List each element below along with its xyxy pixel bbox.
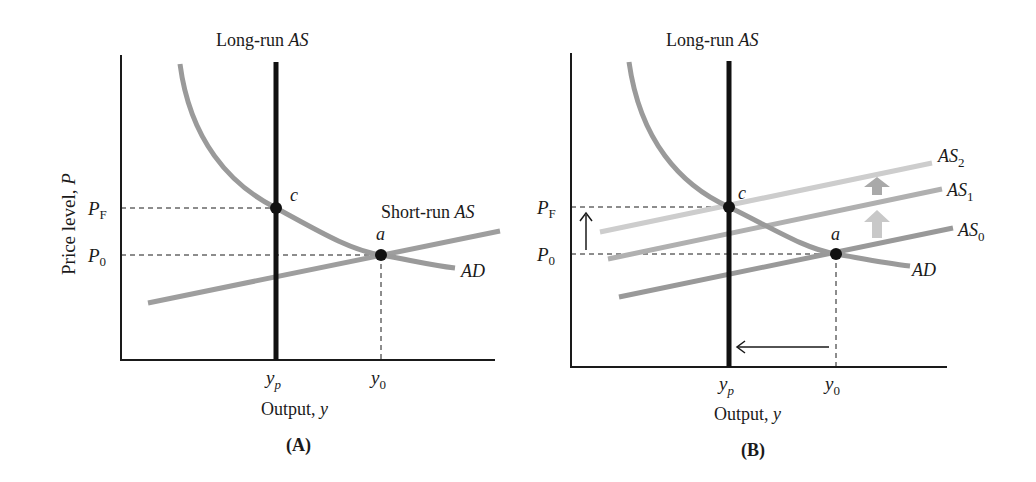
ad-curve: [180, 64, 455, 268]
as2-label: AS2: [937, 146, 965, 170]
as1-curve: [608, 189, 942, 259]
x-tick-y0: y0: [823, 373, 840, 398]
as0-label: AS0: [957, 220, 985, 244]
y-tick-p0: P0: [87, 245, 106, 269]
point-a-label: a: [376, 224, 385, 244]
panel-b: Long-run AS c a AS2 AS1 AS0 AD PF P0 yp …: [536, 30, 985, 461]
point-a: [830, 248, 842, 260]
x-tick-yp: yp: [717, 373, 734, 398]
panel-caption: (A): [286, 435, 311, 456]
x-tick-yp: yp: [264, 367, 281, 392]
aggregate-supply-diagram: Long-run AS c a Short-run AS AD PF P0 yp…: [0, 0, 1036, 482]
y-tick-p0: P0: [536, 244, 555, 268]
top-label: Long-run AS: [216, 30, 308, 50]
x-axis-label: Output, y: [261, 399, 328, 419]
x-tick-y0: y0: [369, 367, 386, 392]
y-tick-pf: PF: [536, 197, 556, 221]
x-axis-label: Output, y: [714, 404, 781, 424]
as1-label: AS1: [946, 180, 974, 204]
point-c: [270, 202, 282, 214]
y-tick-pf: PF: [87, 198, 107, 222]
top-label: Long-run AS: [666, 30, 758, 50]
y-axis-label: Price level, P: [58, 173, 79, 275]
panel-caption: (B): [741, 440, 765, 461]
ad-curve: [629, 62, 910, 266]
point-c-label: c: [290, 185, 298, 205]
sras-label: Short-run AS: [381, 202, 475, 222]
point-a-label: a: [831, 224, 840, 244]
point-a: [375, 249, 387, 261]
ad-label: AD: [460, 261, 485, 281]
point-c-label: c: [738, 183, 746, 203]
shift-up-arrow-upper-icon: [864, 177, 890, 195]
shift-up-arrow-lower-icon: [864, 210, 890, 238]
panel-a: Long-run AS c a Short-run AS AD PF P0 yp…: [58, 30, 500, 456]
ad-label: AD: [911, 260, 936, 280]
point-c: [723, 201, 735, 213]
